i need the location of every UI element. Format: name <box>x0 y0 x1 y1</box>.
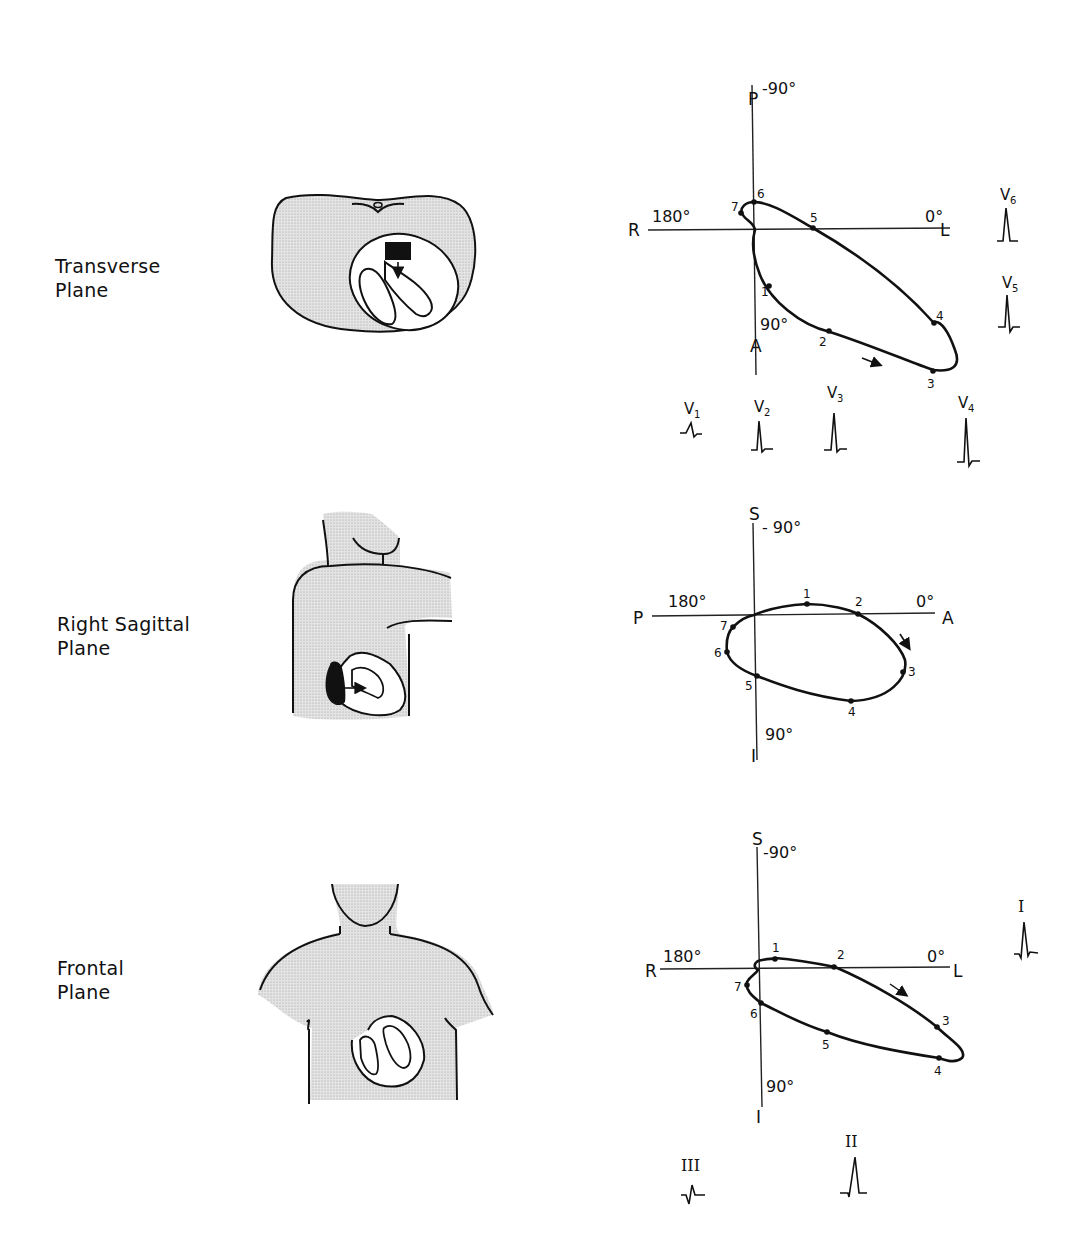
svg-text:6: 6 <box>757 187 765 201</box>
svg-text:5: 5 <box>745 679 753 693</box>
x-axis <box>652 613 935 616</box>
frontal-torso-illustration <box>258 884 493 1104</box>
svg-text:6: 6 <box>1010 195 1016 206</box>
svg-text:A: A <box>750 336 762 356</box>
lead-v1: V 1 <box>680 400 702 437</box>
y-axis <box>757 847 762 1107</box>
svg-text:3: 3 <box>942 1014 950 1028</box>
svg-text:0°: 0° <box>916 592 934 611</box>
svg-text:7: 7 <box>734 980 742 994</box>
lead-v2: S V 2 <box>751 398 773 452</box>
frontal-vcg-loop: S -90° R 180° 0° L 90° I 1 2 3 4 5 6 7 <box>645 829 963 1127</box>
svg-text:6: 6 <box>714 646 722 660</box>
direction-arrow-icon <box>890 984 906 995</box>
lead-v6: V 6 <box>997 186 1018 241</box>
svg-text:L: L <box>953 961 963 981</box>
svg-text:-90°: -90° <box>762 79 796 98</box>
svg-text:1: 1 <box>803 587 811 601</box>
direction-arrow-icon <box>862 358 880 365</box>
svg-text:I: I <box>1018 897 1024 916</box>
x-axis <box>660 967 950 969</box>
svg-text:II: II <box>845 1132 858 1151</box>
svg-text:3: 3 <box>837 393 843 404</box>
svg-text:R: R <box>628 220 640 240</box>
svg-text:5: 5 <box>810 211 818 225</box>
vectorcardiogram-figure: P -90° R 180° 0° L 90° A 1 2 3 4 5 6 7 V… <box>0 0 1067 1252</box>
transverse-vcg-loop: P -90° R 180° 0° L 90° A 1 2 3 4 5 6 7 <box>628 79 957 391</box>
svg-text:3: 3 <box>908 665 916 679</box>
svg-text:0°: 0° <box>927 947 945 966</box>
svg-text:7: 7 <box>731 200 739 214</box>
svg-text:R: R <box>645 961 657 981</box>
svg-text:90°: 90° <box>766 1077 794 1096</box>
direction-arrow-icon <box>900 634 909 648</box>
svg-text:5: 5 <box>822 1038 830 1052</box>
svg-text:180°: 180° <box>668 592 707 611</box>
svg-text:2: 2 <box>819 335 827 349</box>
svg-text:5: 5 <box>1012 283 1018 294</box>
axis-letter-top: P <box>748 89 758 109</box>
svg-text:7: 7 <box>720 619 728 633</box>
svg-text:I: I <box>756 1107 761 1127</box>
x-axis <box>648 228 950 230</box>
svg-text:180°: 180° <box>652 207 691 226</box>
svg-text:S: S <box>749 504 760 524</box>
svg-text:2: 2 <box>855 595 863 609</box>
svg-text:3: 3 <box>927 377 935 391</box>
y-axis <box>753 523 757 760</box>
lead-v3: V 3 <box>824 384 847 452</box>
svg-text:L: L <box>940 220 950 240</box>
transverse-chest-illustration <box>272 195 475 345</box>
svg-text:4: 4 <box>848 705 856 719</box>
svg-text:1: 1 <box>694 409 700 420</box>
svg-text:180°: 180° <box>663 947 702 966</box>
svg-text:4: 4 <box>968 403 974 414</box>
right-sagittal-body-illustration <box>293 512 452 720</box>
svg-text:2: 2 <box>837 948 845 962</box>
svg-text:4: 4 <box>934 1064 942 1078</box>
svg-text:90°: 90° <box>760 315 788 334</box>
svg-text:1: 1 <box>772 941 780 955</box>
svg-text:I: I <box>751 746 756 766</box>
svg-text:III: III <box>681 1156 700 1175</box>
right-sagittal-vcg-loop: S - 90° P 180° 0° A 90° I 1 2 3 4 5 6 7 <box>633 504 954 766</box>
svg-text:A: A <box>942 608 954 628</box>
svg-text:4: 4 <box>936 309 944 323</box>
lead-v5: V 5 <box>998 274 1020 332</box>
svg-text:6: 6 <box>750 1007 758 1021</box>
svg-text:-90°: -90° <box>763 843 797 862</box>
limb-leads: I II III <box>681 897 1038 1204</box>
svg-text:S: S <box>752 829 763 849</box>
svg-text:P: P <box>633 608 643 628</box>
svg-text:- 90°: - 90° <box>762 518 801 537</box>
svg-text:1: 1 <box>761 285 769 299</box>
lead-ii: II <box>840 1132 867 1197</box>
lead-iii: III <box>681 1156 705 1204</box>
lead-v4: V 4 <box>957 394 980 466</box>
lead-i: I <box>1014 897 1038 958</box>
svg-text:90°: 90° <box>765 725 793 744</box>
svg-text:2: 2 <box>764 407 770 418</box>
